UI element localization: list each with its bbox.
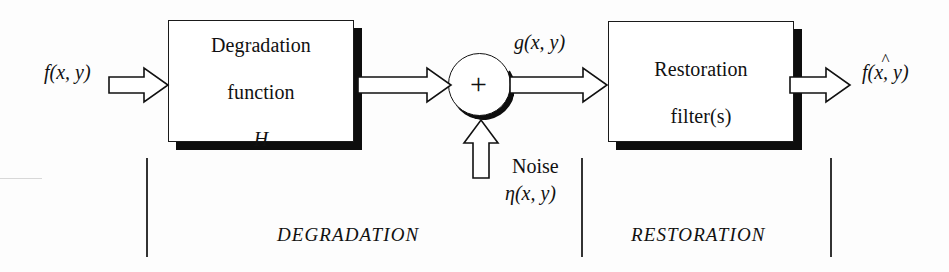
block-arrow-right-icon [789, 66, 852, 108]
degradation-label-line1: Degradation [211, 34, 311, 56]
restoration-box-label: Restoration filter(s) [654, 34, 747, 128]
restoration-label-line1: Restoration [654, 58, 747, 80]
section-caption-restoration: RESTORATION [631, 224, 766, 246]
noise-symbol-label: η(x, y) [505, 182, 556, 205]
section-divider-left [146, 158, 148, 257]
plus-operator-icon: + [470, 69, 487, 99]
degradation-box-label: Degradation function H [211, 10, 311, 152]
noise-label: Noise [512, 155, 559, 178]
section-caption-degradation: DEGRADATION [277, 224, 419, 246]
f-hat-symbol: ^f(x, y) [862, 61, 909, 84]
section-divider-middle [581, 158, 583, 257]
input-signal-label: f(x, y) [44, 61, 91, 84]
degradation-function-box: Degradation function H [168, 20, 354, 142]
figure-canvas: f(x, y) Degradation function H + Noise η… [0, 0, 949, 272]
block-arrow-right-icon [108, 66, 170, 108]
output-signal-label: ^f(x, y) [862, 61, 909, 84]
restoration-label-line2: filter(s) [671, 105, 732, 127]
section-divider-right [830, 158, 832, 257]
block-arrow-right-icon [509, 66, 609, 108]
block-arrow-up-icon [462, 118, 500, 184]
block-arrow-right-icon [357, 66, 453, 108]
restoration-filter-box: Restoration filter(s) [608, 21, 794, 142]
degradation-transfer-symbol: H [254, 128, 269, 150]
degraded-signal-label: g(x, y) [514, 31, 565, 54]
hat-accent-icon: ^ [882, 51, 890, 68]
scan-artifact-line [0, 178, 42, 179]
degradation-label-line2: function [227, 81, 294, 103]
